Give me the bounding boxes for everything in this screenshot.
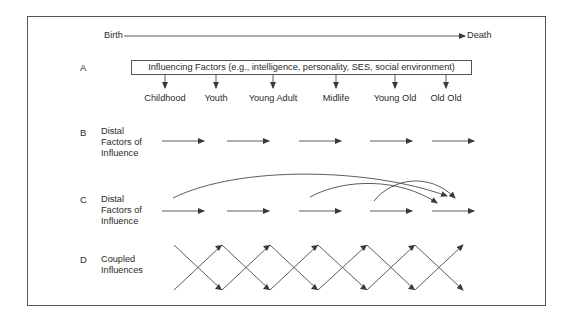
- d-zigzag-top-start: [174, 245, 463, 290]
- d-vertex-arrowheads: [215, 245, 415, 290]
- c-arc-mid: [310, 183, 437, 203]
- diagram-arrows: [0, 0, 573, 319]
- d-zigzag-bottom-start: [174, 245, 463, 290]
- c-arc-long: [173, 174, 447, 198]
